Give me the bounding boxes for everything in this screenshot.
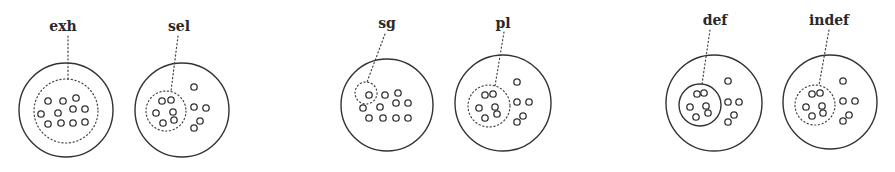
element-dot	[58, 120, 64, 126]
element-dot	[366, 92, 372, 98]
element-dot	[817, 90, 823, 96]
element-dot	[526, 99, 532, 105]
element-dot	[60, 98, 66, 104]
subset-circle-dotted	[795, 85, 835, 125]
element-dot	[191, 125, 197, 131]
pointer-line	[495, 32, 504, 86]
element-dot	[731, 112, 737, 118]
domain-circle	[783, 55, 877, 149]
element-dot	[159, 98, 165, 104]
element-dot	[38, 111, 44, 117]
element-dot	[492, 104, 498, 110]
subset-circle-dotted	[468, 85, 510, 127]
element-dot	[820, 110, 826, 116]
element-dot	[366, 115, 372, 121]
element-dot	[736, 99, 742, 105]
domain-circle	[135, 63, 229, 157]
element-dot	[70, 120, 76, 126]
element-dot	[191, 104, 197, 110]
element-dot	[809, 91, 815, 97]
element-dot	[405, 100, 411, 106]
element-dot	[840, 118, 846, 124]
panel-pl: pl	[455, 15, 551, 151]
element-dot	[82, 106, 88, 112]
panel-indef: indef	[783, 12, 877, 149]
element-dot	[160, 120, 166, 126]
element-dot	[846, 112, 852, 118]
set-diagram: exhselsgpldefindef	[0, 0, 895, 172]
subset-circle-solid	[679, 84, 721, 126]
element-dot	[203, 105, 209, 111]
element-dot	[725, 119, 731, 125]
panel-label: sg	[378, 15, 396, 31]
panel-label: exh	[49, 18, 76, 34]
element-dot	[382, 92, 388, 98]
panel-def: def	[666, 12, 762, 151]
element-dot	[819, 103, 825, 109]
panel-label: indef	[809, 12, 850, 28]
element-dot	[45, 98, 51, 104]
element-dot	[191, 84, 197, 90]
element-dot	[377, 104, 383, 110]
element-dot	[701, 90, 707, 96]
panel-exh: exh	[19, 18, 113, 157]
element-dot	[82, 119, 88, 125]
panel-label: sel	[168, 18, 190, 34]
element-dot	[482, 92, 488, 98]
element-dot	[73, 95, 79, 101]
pointer-line	[367, 34, 385, 82]
element-dot	[514, 99, 520, 105]
element-dot	[405, 115, 411, 121]
element-dot	[395, 90, 401, 96]
panel-label: def	[703, 12, 729, 28]
element-dot	[45, 121, 51, 127]
element-dot	[55, 110, 61, 116]
domain-circle	[341, 59, 433, 151]
element-dot	[490, 91, 496, 97]
element-dot	[197, 118, 203, 124]
element-dot	[153, 110, 159, 116]
element-dot	[514, 119, 520, 125]
pointer-line	[702, 30, 710, 84]
element-dot	[694, 91, 700, 97]
domain-circle	[455, 55, 551, 151]
panel-sg: sg	[341, 15, 433, 151]
element-dot	[168, 97, 174, 103]
panel-label: pl	[495, 15, 510, 31]
element-dot	[687, 104, 693, 110]
element-dot	[514, 79, 520, 85]
element-dot	[705, 110, 711, 116]
element-dot	[693, 114, 699, 120]
element-dot	[476, 105, 482, 111]
element-dot	[70, 106, 76, 112]
element-dot	[520, 113, 526, 119]
element-dot	[171, 117, 177, 123]
element-dot	[703, 103, 709, 109]
element-dot	[852, 98, 858, 104]
element-dot	[725, 99, 731, 105]
element-dot	[840, 98, 846, 104]
panel-sel: sel	[135, 18, 229, 157]
pointer-line	[819, 30, 829, 85]
element-dot	[170, 109, 176, 115]
element-dot	[803, 104, 809, 110]
element-dot	[393, 115, 399, 121]
element-dot	[380, 115, 386, 121]
element-dot	[360, 105, 366, 111]
subset-circle-dotted	[34, 79, 98, 143]
element-dot	[393, 100, 399, 106]
element-dot	[809, 113, 815, 119]
element-dot	[494, 111, 500, 117]
element-dot	[725, 78, 731, 84]
domain-circle	[666, 55, 762, 151]
element-dot	[482, 115, 488, 121]
element-dot	[840, 78, 846, 84]
